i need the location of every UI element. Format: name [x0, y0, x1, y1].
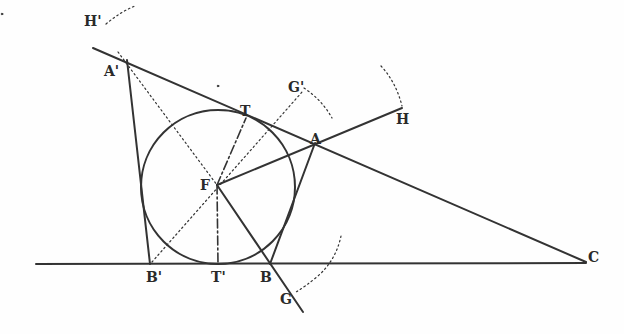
diagram-canvas: H' A' T G' A H F B' T' B G C [0, 0, 624, 334]
base-line [36, 263, 586, 264]
label-F: F [200, 178, 210, 192]
dotted-arc-G-prime [304, 88, 332, 118]
tangent-line-A-prime-C [93, 48, 586, 262]
label-B-prime: B' [146, 270, 162, 284]
label-G: G [280, 292, 292, 306]
label-T: T [240, 104, 250, 118]
label-G-prime: G' [288, 80, 304, 94]
label-A-prime: A' [104, 64, 119, 78]
label-H-prime: H' [84, 14, 102, 28]
label-A: A [310, 132, 321, 146]
label-C: C [588, 250, 599, 264]
segment-A-prime-B-prime [127, 60, 150, 264]
dot-mark [217, 85, 219, 87]
geometry-figure [0, 0, 624, 334]
label-T-prime: T' [211, 270, 226, 284]
dotted-arc-H [381, 66, 402, 106]
label-B: B [260, 270, 272, 284]
label-H: H [396, 112, 409, 126]
dot-mark [1, 13, 3, 15]
radius-F-T-prime [217, 185, 218, 264]
dotted-arc-H-prime [106, 6, 135, 24]
